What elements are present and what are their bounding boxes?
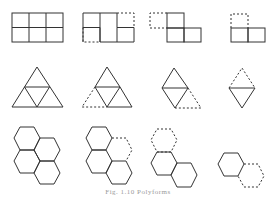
hexagon-cluster-partial-3	[218, 153, 264, 187]
square-grid-partial-3	[231, 14, 265, 42]
triangle-partial-2	[162, 68, 201, 108]
hexagon-cluster-partial-1	[86, 127, 132, 184]
polyform-figure	[0, 0, 276, 199]
triangle-partial-3	[229, 68, 255, 108]
square-grid-partial-2	[150, 13, 201, 42]
hexagon-cluster-full	[14, 127, 60, 184]
figure-caption: Fig. 1.10 Polyforms	[0, 188, 276, 196]
triangle-partial-1	[82, 67, 132, 107]
triangle-full	[12, 67, 63, 107]
square-grid-partial-1	[83, 13, 134, 42]
hexagon-cluster-partial-2	[151, 129, 197, 187]
square-grid-full	[12, 13, 63, 42]
